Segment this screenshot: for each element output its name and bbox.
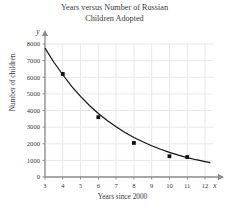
x-tick-label: 3 <box>43 182 47 189</box>
x-tick-label: 8 <box>132 182 136 189</box>
y-tick-label: 4000 <box>27 107 41 114</box>
plot-area: 3456789101112 01000200030004000500060007… <box>0 0 229 210</box>
x-tick-label: 10 <box>166 182 173 189</box>
fit-curve <box>45 48 210 162</box>
y-tick-label: 1000 <box>27 157 41 164</box>
y-tick-label: 7000 <box>27 57 41 64</box>
x-tick-label: 6 <box>97 182 101 189</box>
data-point-marker <box>96 115 100 119</box>
y-tick-label: 5000 <box>27 90 41 97</box>
x-tick-label: 5 <box>79 182 83 189</box>
y-tick-label: 6000 <box>27 74 41 81</box>
y-tick-label: 3000 <box>27 123 41 130</box>
x-tick-label: 9 <box>150 182 154 189</box>
y-tick-label: 0 <box>37 173 41 180</box>
data-point-marker <box>61 72 65 76</box>
y-tick-label: 8000 <box>27 40 41 47</box>
x-tick-label: 4 <box>61 182 65 189</box>
data-point-marker <box>132 141 136 145</box>
x-axis-title: Years since 2000 <box>35 192 210 201</box>
x-axis-arrow <box>218 174 224 180</box>
y-tick-label: 2000 <box>27 140 41 147</box>
data-point-marker <box>168 154 172 158</box>
x-tick-label: 12 <box>202 182 209 189</box>
axis-lines <box>42 30 224 180</box>
fit-curve-path <box>45 48 210 162</box>
data-point-marker <box>185 155 189 159</box>
x-axis-variable: x <box>212 181 217 190</box>
y-axis-variable: y <box>35 27 40 36</box>
x-tick-label: 11 <box>184 182 190 189</box>
x-tick-label: 7 <box>114 182 118 189</box>
y-tick-labels: 010002000300040005000600070008000 <box>27 40 41 180</box>
chart-figure: Years versus Number of Russian Children … <box>0 0 229 210</box>
y-axis-title: Number of children <box>8 43 17 123</box>
y-axis-arrow <box>42 30 48 36</box>
x-tick-labels: 3456789101112 <box>43 182 208 189</box>
